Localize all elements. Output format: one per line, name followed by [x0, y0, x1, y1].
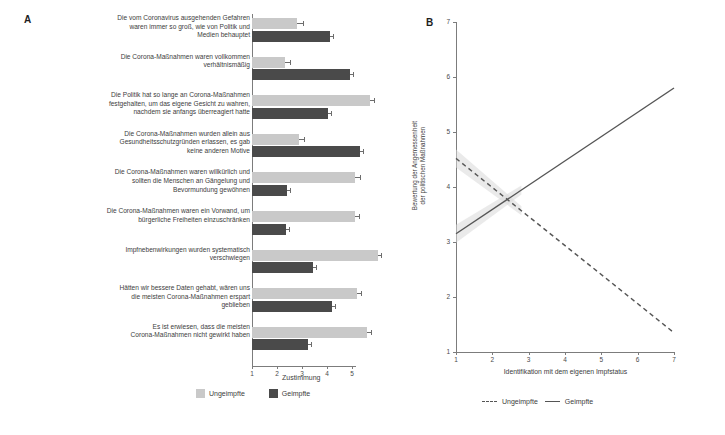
panel-a-tick-label: 5	[345, 370, 359, 377]
panel-a-error-cap	[290, 188, 291, 193]
panel-b: B 1234567 1234567 Bewertung der Angemess…	[390, 0, 725, 435]
panel-b-legend-label: Geimpfte	[565, 398, 593, 405]
panel-a-category-label: Impfnebenwirkungen wurden systematisch v…	[40, 246, 250, 263]
panel-b-x-tick-mark	[674, 352, 675, 355]
panel-a-bar	[252, 146, 360, 157]
panel-b-y-tick-label: 6	[438, 73, 450, 80]
panel-b-y-tick-mark	[453, 132, 456, 133]
panel-a-bar	[252, 69, 350, 80]
panel-a-tick-mark	[252, 366, 253, 369]
panel-b-line-geimpfte	[456, 88, 674, 234]
panel-a-error-cap	[335, 304, 336, 309]
panel-a-bar	[252, 224, 286, 235]
panel-b-y-tick-mark	[453, 77, 456, 78]
panel-a-category-label: Die Corona-Maßnahmen waren willkürlich u…	[40, 168, 250, 194]
panel-a-bar	[252, 211, 355, 222]
panel-a-error-cap	[290, 60, 291, 65]
panel-a-category-label: Hätten wir bessere Daten gehabt, wären u…	[40, 284, 250, 310]
panel-b-x-tick-label: 1	[450, 356, 462, 363]
panel-b-legend-line-dashed	[482, 401, 497, 402]
panel-a-x-axis-title: Zustimmung	[282, 374, 321, 381]
panel-a-legend-swatch	[269, 389, 278, 398]
panel-a-tick-mark	[277, 366, 278, 369]
panel-a-error-cap	[304, 137, 305, 142]
panel-b-legend-label: Ungeimpfte	[502, 398, 538, 405]
panel-b-legend-item: Ungeimpfte	[482, 398, 538, 405]
panel-a-error-cap	[289, 227, 290, 232]
panel-b-legend: UngeimpfteGeimpfte	[482, 398, 593, 405]
panel-b-x-tick-mark	[529, 352, 530, 355]
panel-a-legend-item: Ungeimpfte	[196, 389, 245, 398]
panel-b-y-tick-label: 1	[438, 348, 450, 355]
panel-a: A Die vom Coronavirus ausgehenden Gefahr…	[0, 0, 390, 435]
panel-a-error-cap	[371, 330, 372, 335]
panel-a-tick-label: 4	[320, 370, 334, 377]
panel-a-bar	[252, 185, 287, 196]
panel-b-x-tick-label: 5	[595, 356, 607, 363]
panel-a-tick-mark	[327, 366, 328, 369]
panel-b-y-tick-label: 3	[438, 238, 450, 245]
panel-b-confidence-band	[456, 186, 521, 243]
panel-a-legend-label: Geimpfte	[282, 390, 310, 397]
figure-root: A Die vom Coronavirus ausgehenden Gefahr…	[0, 0, 725, 435]
panel-b-x-tick-label: 7	[668, 356, 680, 363]
panel-a-tick-mark	[302, 366, 303, 369]
panel-a-bar	[252, 108, 328, 119]
panel-a-error-cap	[360, 175, 361, 180]
panel-b-y-tick-mark	[453, 352, 456, 353]
panel-a-bar	[252, 327, 367, 338]
panel-b-legend-line-solid	[545, 401, 560, 402]
panel-b-y-tick-label: 4	[438, 183, 450, 190]
panel-a-error-cap	[303, 21, 304, 26]
panel-b-y-tick-mark	[453, 187, 456, 188]
panel-a-error-cap	[316, 265, 317, 270]
panel-b-y-tick-label: 2	[438, 293, 450, 300]
panel-a-tick-mark	[352, 366, 353, 369]
panel-b-x-tick-label: 4	[559, 356, 571, 363]
panel-b-y-axis-title: Bewertung der Angemessenheitder politisc…	[411, 91, 426, 241]
panel-b-y-tick-label: 7	[438, 18, 450, 25]
panel-a-category-label: Die Politik hat so lange an Corona-Maßna…	[40, 91, 250, 117]
panel-b-y-tick-label: 5	[438, 128, 450, 135]
panel-b-line-series	[456, 22, 674, 352]
panel-a-bar	[252, 134, 299, 145]
panel-b-x-tick-mark	[638, 352, 639, 355]
panel-b-x-tick-label: 3	[523, 356, 535, 363]
panel-b-x-tick-mark	[456, 352, 457, 355]
panel-a-error-cap	[381, 253, 382, 258]
panel-a-tick-label: 1	[245, 370, 259, 377]
panel-a-error-cap	[359, 214, 360, 219]
panel-a-category-label: Es ist erwiesen, dass die meisten Corona…	[40, 323, 250, 340]
panel-a-legend: UngeimpfteGeimpfte	[196, 389, 310, 398]
panel-a-letter: A	[24, 14, 31, 25]
panel-b-x-tick-mark	[601, 352, 602, 355]
panel-a-bar	[252, 172, 355, 183]
panel-b-x-axis-title: Identifikation mit dem eigenen Impfstatu…	[456, 368, 675, 375]
panel-b-x-tick-label: 6	[632, 356, 644, 363]
panel-a-error-cap	[353, 72, 354, 77]
panel-a-error-cap	[331, 111, 332, 116]
panel-b-legend-item: Geimpfte	[545, 398, 593, 405]
panel-a-x-axis	[252, 366, 356, 367]
panel-a-error-cap	[374, 98, 375, 103]
panel-b-y-tick-mark	[453, 242, 456, 243]
panel-a-bar	[252, 301, 332, 312]
panel-b-y-tick-mark	[453, 297, 456, 298]
panel-a-error-cap	[311, 342, 312, 347]
panel-b-y-axis-title-line: der politischen Maßnahmen	[419, 91, 427, 241]
panel-b-letter: B	[426, 17, 433, 28]
panel-a-legend-label: Ungeimpfte	[209, 390, 245, 397]
panel-b-line-ungeimpfte	[456, 158, 674, 332]
panel-a-bar	[252, 95, 370, 106]
panel-a-category-label: Die vom Coronavirus ausgehenden Gefahren…	[40, 14, 250, 40]
panel-b-x-tick-label: 2	[486, 356, 498, 363]
panel-b-y-tick-mark	[453, 22, 456, 23]
panel-a-error-cap	[363, 149, 364, 154]
panel-a-category-label: Die Corona-Maßnahmen waren vollkommen ve…	[40, 53, 250, 70]
panel-a-bar	[252, 18, 297, 29]
panel-a-error-cap	[361, 291, 362, 296]
panel-a-category-label: Die Corona-Maßnahmen wurden allein aus G…	[40, 130, 250, 156]
panel-a-bar	[252, 250, 378, 261]
panel-b-x-tick-mark	[565, 352, 566, 355]
panel-a-error-cap	[333, 34, 334, 39]
